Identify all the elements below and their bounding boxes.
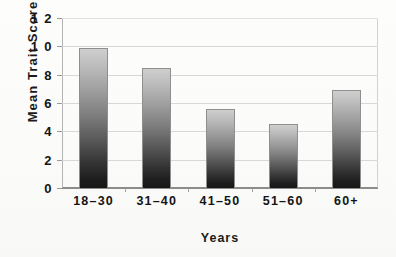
x-axis-tick-mark: [315, 188, 316, 192]
x-axis-title: Years: [60, 231, 380, 245]
bar: [269, 124, 298, 188]
x-axis-tick-label: 18–30: [62, 194, 125, 208]
x-axis-tick-mark: [188, 188, 189, 192]
y-axis-tick-label: 0: [44, 181, 53, 196]
bar: [142, 68, 171, 188]
x-axis-tick-mark: [252, 188, 253, 192]
y-axis-tick-label: 4: [44, 124, 53, 139]
y-axis-tick-label: 8: [44, 67, 53, 82]
y-axis-tick-mark: [57, 18, 62, 19]
y-axis-tick-mark: [57, 75, 62, 76]
gridline: [62, 188, 378, 189]
y-axis-tick-mark: [57, 46, 62, 47]
x-axis-tick-label: 31–40: [125, 194, 188, 208]
gridline: [62, 103, 378, 104]
bar: [79, 48, 108, 188]
gridline: [62, 18, 378, 19]
y-axis-tick-mark: [57, 160, 62, 161]
y-axis-tick-mark: [57, 131, 62, 132]
gridline: [62, 75, 378, 76]
y-axis-tick-label: 1 2: [31, 11, 53, 26]
x-axis-tick-label: 60+: [315, 194, 378, 208]
x-axis-tick-label: 51–60: [252, 194, 315, 208]
y-axis-tick-label: 1 0: [31, 39, 53, 54]
gridline: [62, 46, 378, 47]
y-axis-tick-label: 6: [44, 96, 53, 111]
bar: [206, 109, 235, 188]
y-axis-tick-mark: [57, 103, 62, 104]
y-axis-tick-label: 2: [44, 152, 53, 167]
y-axis-tick-mark: [57, 188, 62, 189]
plot-area: 024681 01 2: [62, 18, 378, 188]
x-axis-tick-label: 41–50: [188, 194, 251, 208]
x-axis-tick-mark: [125, 188, 126, 192]
bar-chart-figure: Mean Trait Score 024681 01 2 18–3031–404…: [0, 0, 396, 257]
bar: [332, 90, 361, 188]
